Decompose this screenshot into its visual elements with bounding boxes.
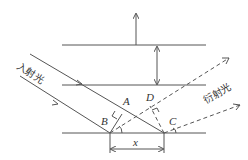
angle-mark-c <box>173 128 176 133</box>
label-c: C <box>169 115 177 127</box>
diffraction-diagram: 入射光 衍射光 A B C D x <box>0 0 248 160</box>
label-diffracted: 衍射光 <box>201 80 233 105</box>
diffracted-arrow-icon-2 <box>233 104 240 110</box>
label-b: B <box>101 115 108 127</box>
label-a: A <box>122 95 130 107</box>
label-x: x <box>132 136 138 148</box>
incident-arrow-icon-2 <box>52 100 58 105</box>
right-angle-a <box>112 111 117 119</box>
diffracted-arrow-icon-1 <box>222 58 229 64</box>
wavefront-ba <box>110 114 122 133</box>
incident-ray-upper <box>30 54 164 133</box>
label-d: D <box>145 91 154 103</box>
label-incident: 入射光 <box>15 60 47 86</box>
angle-mark-b <box>119 126 122 133</box>
